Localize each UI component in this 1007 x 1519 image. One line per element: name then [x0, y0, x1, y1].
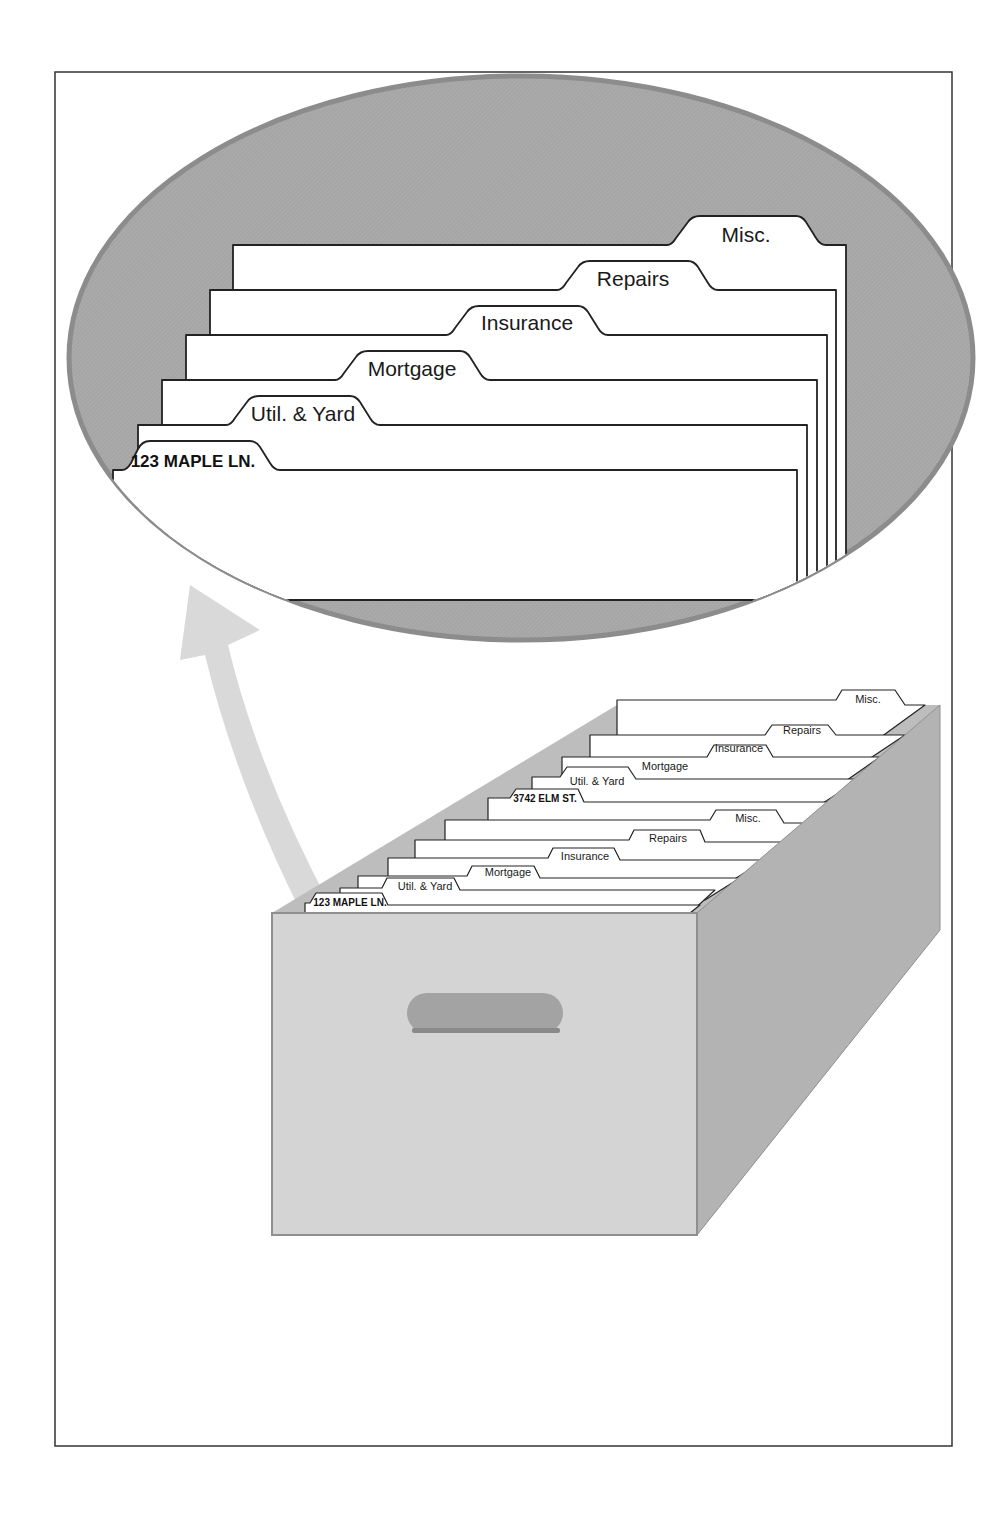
mag-tab-123-maple: 123 MAPLE LN. — [131, 452, 256, 471]
magnified-view: Misc. Repairs Insurance Mortgage Util. &… — [69, 76, 973, 640]
mag-tab-mortgage: Mortgage — [368, 357, 457, 380]
box-tab-back-mortgage: Mortgage — [642, 760, 688, 772]
box-tab-123-maple: 123 MAPLE LN. — [313, 897, 387, 908]
mag-tab-misc: Misc. — [722, 223, 771, 246]
box-front — [272, 913, 697, 1235]
box-tab-front-mortgage: Mortgage — [485, 866, 531, 878]
box-tab-front-misc: Misc. — [735, 812, 761, 824]
box-tab-back-insurance: Insurance — [715, 742, 763, 754]
mag-tab-util-yard: Util. & Yard — [251, 402, 355, 425]
handle-shadow — [412, 1028, 560, 1033]
box-tab-front-repairs: Repairs — [649, 832, 687, 844]
box-tab-back-repairs: Repairs — [783, 724, 821, 736]
box-tab-front-insurance: Insurance — [561, 850, 609, 862]
box-handle — [407, 993, 563, 1033]
box-tab-back-util-yard: Util. & Yard — [570, 775, 625, 787]
box-tab-front-util-yard: Util. & Yard — [398, 880, 453, 892]
mag-tab-repairs: Repairs — [597, 267, 669, 290]
box-tab-3742-elm: 3742 ELM ST. — [513, 793, 577, 804]
box-tab-back-misc: Misc. — [855, 693, 881, 705]
file-box-illustration: Misc. Repairs Insurance Mortgage Util. &… — [0, 0, 1007, 1519]
mag-tab-insurance: Insurance — [481, 311, 573, 334]
